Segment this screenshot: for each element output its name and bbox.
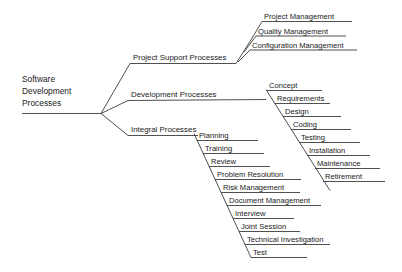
subitem-label-testing: Testing [301, 133, 325, 142]
subitem-label-concept: Concept [269, 81, 298, 90]
subitem-label-project-management: Project Management [264, 12, 335, 21]
subitem-label-planning: Planning [199, 131, 229, 140]
branch-label-integral-processes: Integral Processes [131, 125, 196, 134]
subitem-label-installation: Installation [309, 146, 345, 155]
subitem-label-joint-session: Joint Session [241, 222, 286, 231]
diagram-canvas: Software Development Processes Project S… [0, 0, 402, 272]
subitem-label-configuration-management: Configuration Management [252, 41, 344, 50]
subitem-label-requirements: Requirements [277, 94, 324, 103]
root-label-line-2: Development [22, 86, 72, 96]
branch-project-support-diagonal [101, 64, 130, 114]
root-label-line-3: Processes [22, 98, 61, 108]
subitem-label-maintenance: Maintenance [317, 159, 360, 168]
subitem-label-problem-resolution: Problem Resolution [217, 170, 283, 179]
branch-label-project-support-processes: Project Support Processes [133, 53, 226, 62]
subitem-label-risk-management: Risk Management [223, 183, 285, 192]
subitem-label-document-management: Document Management [229, 196, 311, 205]
branch-label-development-processes: Development Processes [131, 90, 217, 99]
branch-development-horizontal [128, 100, 266, 101]
subitem-label-retirement: Retirement [325, 172, 363, 181]
subitem-label-training: Training [205, 144, 232, 153]
fishbone-diagram: Software Development Processes Project S… [0, 0, 402, 272]
root-label-line-1: Software [22, 74, 55, 84]
subitem-label-test: Test [253, 248, 268, 257]
subitem-label-coding: Coding [293, 120, 317, 129]
subitem-label-design: Design [285, 107, 309, 116]
subitem-label-review: Review [211, 157, 236, 166]
subitem-label-technical-investigation: Technical Investigation [247, 235, 323, 244]
subitem-label-quality-management: Quality Management [258, 27, 329, 36]
branch-integral-diagonal [101, 114, 128, 136]
subitem-label-interview: Interview [235, 209, 266, 218]
